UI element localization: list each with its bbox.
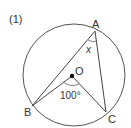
angle-arc-bac [88, 40, 97, 42]
label-100: 100° [60, 90, 81, 101]
angle-arc-boc [63, 82, 79, 86]
circle [23, 24, 125, 126]
label-c: C [108, 113, 116, 125]
circle-diagram: (1) A B C O x 100° [0, 0, 131, 128]
problem-number: (1) [9, 13, 22, 25]
chord-ac [95, 31, 106, 112]
label-b: B [24, 106, 31, 118]
label-o: O [75, 65, 84, 77]
center-point [70, 74, 74, 78]
label-x: x [85, 44, 92, 55]
label-a: A [92, 18, 100, 30]
